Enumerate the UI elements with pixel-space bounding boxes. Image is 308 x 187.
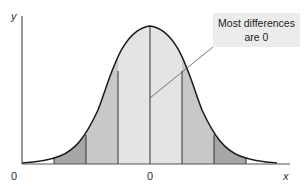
band-middle-left — [86, 0, 118, 164]
callout-line2: are 0 — [213, 30, 300, 44]
band-middle-right — [182, 0, 214, 164]
center-label: 0 — [147, 170, 153, 182]
callout-box: Most differences are 0 — [213, 13, 300, 47]
callout-line1: Most differences — [213, 16, 300, 30]
origin-label: 0 — [11, 170, 17, 182]
x-axis-label: x — [283, 170, 289, 182]
y-axis-label: y — [11, 10, 17, 22]
